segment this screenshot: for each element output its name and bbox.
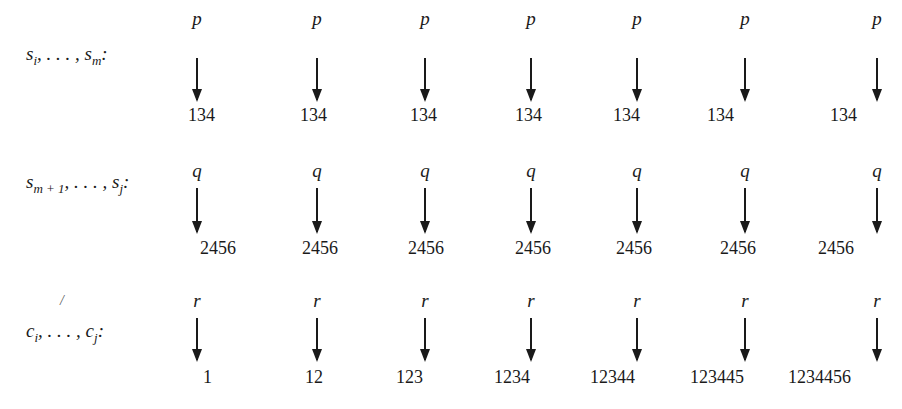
map-symbol: q	[872, 160, 882, 182]
map-symbol: p	[526, 8, 536, 30]
down-arrow-icon	[744, 58, 746, 100]
mapped-value: 134	[300, 105, 327, 126]
down-arrow-icon	[316, 188, 318, 232]
map-symbol: p	[312, 8, 322, 30]
map-symbol: r	[193, 290, 200, 312]
map-symbol: p	[872, 8, 882, 30]
map-symbol: r	[873, 290, 880, 312]
map-symbol: p	[192, 8, 202, 30]
down-arrow-icon	[424, 318, 426, 360]
mapped-value: 134	[515, 105, 542, 126]
mapped-value: 12	[305, 367, 323, 388]
down-arrow-icon	[876, 58, 878, 100]
stray-mark: /	[60, 293, 64, 309]
down-arrow-icon	[316, 318, 318, 360]
mapped-value: 134	[613, 105, 640, 126]
down-arrow-icon	[636, 318, 638, 360]
down-arrow-icon	[424, 188, 426, 232]
down-arrow-icon	[744, 188, 746, 232]
row-label-3: ci, . . . , cj:	[26, 320, 104, 346]
map-symbol: q	[526, 160, 536, 182]
map-symbol: p	[420, 8, 430, 30]
down-arrow-icon	[424, 58, 426, 100]
map-symbol: q	[312, 160, 322, 182]
mapped-value: 134	[410, 105, 437, 126]
map-symbol: r	[421, 290, 428, 312]
map-symbol: q	[632, 160, 642, 182]
mapped-value: 1234456	[788, 367, 851, 388]
mapped-value: 2456	[818, 238, 854, 259]
mapped-value: 1	[203, 367, 212, 388]
mapped-value: 123445	[690, 367, 744, 388]
down-arrow-icon	[744, 318, 746, 360]
mapped-value: 2456	[200, 238, 236, 259]
mapped-value: 123	[396, 367, 423, 388]
map-symbol: q	[420, 160, 430, 182]
down-arrow-icon	[876, 318, 878, 360]
down-arrow-icon	[530, 188, 532, 232]
mapped-value: 1234	[494, 367, 530, 388]
map-symbol: q	[192, 160, 202, 182]
map-symbol: p	[740, 8, 750, 30]
down-arrow-icon	[636, 58, 638, 100]
map-symbol: r	[313, 290, 320, 312]
map-symbol: r	[633, 290, 640, 312]
down-arrow-icon	[530, 318, 532, 360]
mapped-value: 2456	[720, 238, 756, 259]
mapped-value: 12344	[590, 367, 635, 388]
down-arrow-icon	[316, 58, 318, 100]
down-arrow-icon	[196, 58, 198, 100]
mapped-value: 2456	[408, 238, 444, 259]
map-symbol: r	[527, 290, 534, 312]
mapped-value: 2456	[302, 238, 338, 259]
row-label-2: sm + 1, . . . , sj:	[26, 171, 129, 197]
mapped-value: 134	[707, 105, 734, 126]
mapped-value: 2456	[616, 238, 652, 259]
map-symbol: r	[741, 290, 748, 312]
down-arrow-icon	[196, 188, 198, 232]
mapped-value: 2456	[515, 238, 551, 259]
map-symbol: p	[632, 8, 642, 30]
down-arrow-icon	[876, 188, 878, 232]
down-arrow-icon	[196, 318, 198, 360]
down-arrow-icon	[636, 188, 638, 232]
mapped-value: 134	[830, 105, 857, 126]
mapped-value: 134	[188, 105, 215, 126]
map-symbol: q	[740, 160, 750, 182]
row-label-1: si, . . . , sm:	[26, 43, 108, 69]
down-arrow-icon	[530, 58, 532, 100]
